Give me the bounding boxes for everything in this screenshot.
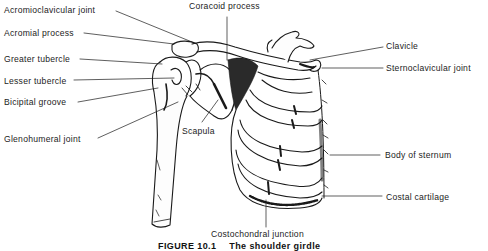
- humerus-drawing: [152, 57, 191, 227]
- label-glenohumeral-joint: Glenohumeral joint: [4, 134, 81, 144]
- figure-caption: FIGURE 10.1 The shoulder girdle: [158, 241, 320, 251]
- leader-acromial-process: [84, 33, 174, 44]
- label-acromioclavicular-joint: Acromioclavicular joint: [4, 5, 95, 15]
- scapula-drawing: [172, 41, 258, 119]
- leader-greater-tubercle: [80, 59, 162, 64]
- label-coracoid-process: Coracoid process: [189, 1, 260, 11]
- leader-lines: [74, 11, 383, 227]
- label-lesser-tubercle: Lesser tubercle: [4, 76, 67, 86]
- label-costochondral-junction: Costochondral junction: [211, 229, 304, 239]
- label-body-of-sternum: Body of sternum: [385, 150, 451, 160]
- label-sternoclavicular-joint: Sternoclavicular joint: [386, 63, 471, 73]
- leader-acromioclavicular: [116, 11, 192, 42]
- label-clavicle: Clavicle: [386, 41, 418, 51]
- sternum-drawing: [318, 70, 328, 198]
- label-acromial-process: Acromial process: [4, 28, 74, 38]
- leader-bicipital-groove: [78, 88, 158, 102]
- label-costal-cartilage: Costal cartilage: [386, 192, 449, 202]
- figure-title: The shoulder girdle: [229, 241, 320, 251]
- label-bicipital-groove: Bicipital groove: [4, 97, 66, 107]
- leader-scapula: [202, 100, 218, 122]
- label-scapula: Scapula: [182, 126, 215, 136]
- label-greater-tubercle: Greater tubercle: [4, 54, 70, 64]
- leader-clavicle: [310, 47, 383, 60]
- figure-number: FIGURE 10.1: [158, 241, 216, 251]
